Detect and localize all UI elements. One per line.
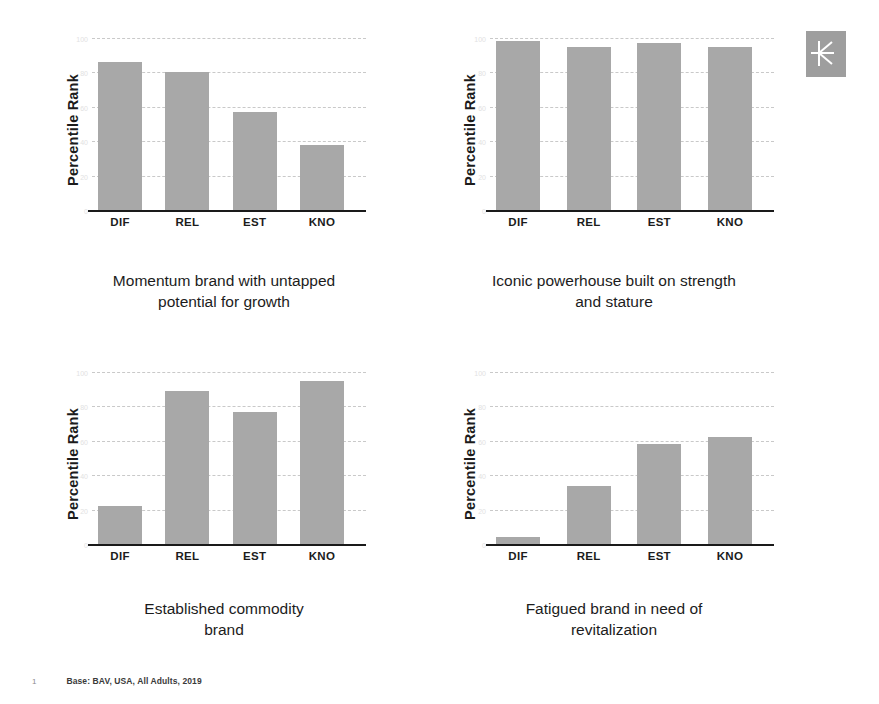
x-axis-labels: DIF REL EST KNO [490,216,758,228]
quadrant-established-commodity: Percentile Rank 100 80 60 40 20 0 DIF RE… [38,352,433,682]
bar-slot [567,38,611,210]
y-tick-label: 20 [464,174,486,181]
y-tick-label: 0 [464,542,486,549]
bar-slot [233,372,277,544]
x-label-est: EST [637,550,681,562]
y-tick-label: 60 [464,105,486,112]
caption-established-commodity: Established commodity brand [38,598,410,641]
x-label-est: EST [233,550,277,562]
caption-momentum-brand: Momentum brand with untapped potential f… [38,270,410,313]
plot-area: 100 80 60 40 20 0 [92,38,350,210]
quadrant-momentum-brand: Percentile Rank 100 80 60 40 20 0 DIF RE… [38,18,433,348]
x-axis-labels: DIF REL EST KNO [92,216,350,228]
caption-line: Fatigued brand in need of [428,598,800,619]
chart-momentum-brand: Percentile Rank 100 80 60 40 20 0 DIF RE… [38,18,433,260]
y-tick-label: 0 [464,208,486,215]
y-tick-label: 60 [66,439,88,446]
bar-kno [300,145,344,210]
bar-group [490,38,758,210]
x-label-rel: REL [165,550,209,562]
y-tick-label: 40 [464,139,486,146]
y-tick-label: 40 [66,139,88,146]
bar-slot [708,38,752,210]
caption-line: potential for growth [38,291,410,312]
bar-dif [98,506,142,544]
bar-dif [496,41,540,210]
y-tick-label: 20 [66,174,88,181]
y-tick-label: 100 [464,36,486,43]
y-tick-label: 100 [66,36,88,43]
bar-rel [567,486,611,544]
y-tick-label: 40 [464,473,486,480]
bar-slot [233,38,277,210]
plot-area: 100 80 60 40 20 0 [490,38,758,210]
x-axis-line [486,544,774,546]
x-label-kno: KNO [300,216,344,228]
y-tick-label: 80 [66,70,88,77]
bar-rel [165,391,209,544]
bar-rel [165,72,209,210]
bar-group [92,38,350,210]
x-label-kno: KNO [708,550,752,562]
chart-iconic-powerhouse: Percentile Rank 100 80 60 40 20 0 DIF RE… [428,18,823,260]
bar-slot [496,38,540,210]
bar-slot [98,372,142,544]
caption-line: Iconic powerhouse built on strength [428,270,800,291]
bar-est [637,444,681,544]
slide-footer: 1 Base: BAV, USA, All Adults, 2019 [32,676,202,686]
caption-line: Momentum brand with untapped [38,270,410,291]
plot-area: 100 80 60 40 20 0 [490,372,758,544]
bar-dif [496,537,540,544]
y-tick-label: 60 [66,105,88,112]
bar-slot [300,372,344,544]
caption-line: Established commodity [38,598,410,619]
caption-fatigued-brand: Fatigued brand in need of revitalization [428,598,800,641]
y-tick-label: 60 [464,439,486,446]
x-label-est: EST [233,216,277,228]
bar-rel [567,47,611,210]
caption-iconic-powerhouse: Iconic powerhouse built on strength and … [428,270,800,313]
page-number: 1 [32,677,36,686]
x-label-dif: DIF [98,216,142,228]
bar-slot [708,372,752,544]
x-axis-line [88,544,366,546]
quadrant-fatigued-brand: Percentile Rank 100 80 60 40 20 0 DIF RE… [428,352,823,682]
bar-slot [637,38,681,210]
y-tick-label: 40 [66,473,88,480]
x-axis-line [88,210,366,212]
x-label-dif: DIF [496,550,540,562]
x-label-rel: REL [567,550,611,562]
bar-kno [708,47,752,210]
x-label-dif: DIF [98,550,142,562]
quadrant-iconic-powerhouse: Percentile Rank 100 80 60 40 20 0 DIF RE… [428,18,823,348]
y-tick-label: 80 [66,404,88,411]
bar-kno [300,381,344,544]
y-tick-label: 80 [464,70,486,77]
bar-group [92,372,350,544]
bar-slot [165,38,209,210]
x-label-dif: DIF [496,216,540,228]
bar-slot [567,372,611,544]
x-axis-labels: DIF REL EST KNO [92,550,350,562]
chart-fatigued-brand: Percentile Rank 100 80 60 40 20 0 DIF RE… [428,352,823,594]
y-tick-label: 20 [464,508,486,515]
y-tick-label: 0 [66,542,88,549]
caption-line: brand [38,619,410,640]
bar-slot [98,38,142,210]
x-label-kno: KNO [300,550,344,562]
bar-group [490,372,758,544]
y-tick-label: 20 [66,508,88,515]
y-tick-label: 0 [66,208,88,215]
caption-line: and stature [428,291,800,312]
source-note: Base: BAV, USA, All Adults, 2019 [66,676,201,686]
slide-canvas: Percentile Rank 100 80 60 40 20 0 DIF RE… [0,0,879,704]
x-label-kno: KNO [708,216,752,228]
plot-area: 100 80 60 40 20 0 [92,372,350,544]
y-tick-label: 100 [464,370,486,377]
bar-dif [98,62,142,210]
bar-est [233,412,277,544]
bar-slot [496,372,540,544]
y-tick-label: 100 [66,370,88,377]
x-label-est: EST [637,216,681,228]
chart-established-commodity: Percentile Rank 100 80 60 40 20 0 DIF RE… [38,352,433,594]
